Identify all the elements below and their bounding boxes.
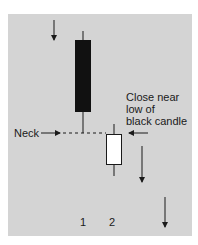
annotation-line-3: black candle: [126, 115, 187, 127]
candle-label-2: 2: [109, 216, 115, 228]
candle-label-1: 1: [80, 216, 86, 228]
annotation-line-1: Close near: [126, 91, 187, 103]
neck-label: Neck: [14, 127, 39, 139]
black-candle-body: [75, 40, 91, 112]
annotation-line-2: low of: [126, 103, 187, 115]
close-annotation: Close near low of black candle: [126, 91, 187, 127]
white-candle-body: [107, 135, 122, 165]
